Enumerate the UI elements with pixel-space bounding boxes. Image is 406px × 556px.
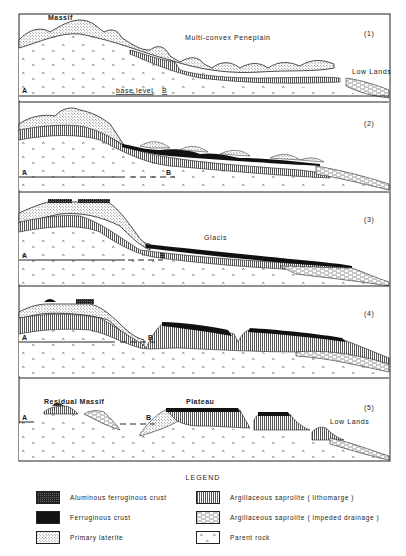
label-low-lands: Low Lands bbox=[330, 418, 369, 425]
label-a: A bbox=[22, 169, 28, 176]
lithomarge-small bbox=[44, 406, 78, 414]
legend-title: LEGEND bbox=[0, 474, 406, 481]
label-massif: Massif bbox=[48, 14, 73, 21]
panel-2: A B (2) bbox=[19, 108, 389, 192]
aluminous-crust-swatch-icon bbox=[36, 491, 60, 504]
label-residual-massif: Residual Massif bbox=[44, 398, 105, 405]
svg-text:^: ^ bbox=[206, 539, 209, 544]
legend-item-ferruginous-crust: Ferruginous crust bbox=[36, 510, 131, 524]
cross-section-diagram: ^ ^ Massif Multi-convex Peneplain (1) Lo… bbox=[0, 0, 406, 470]
label-glacis: Glacis bbox=[204, 234, 227, 241]
label-a: A bbox=[22, 87, 28, 94]
panel-number: (1) bbox=[364, 30, 374, 38]
lithomarge-swatch-icon bbox=[196, 491, 220, 504]
ferruginous-crust-swatch-icon bbox=[36, 511, 60, 524]
legend-label: Ferruginous crust bbox=[70, 514, 131, 521]
panel-1: Massif Multi-convex Peneplain (1) Low La… bbox=[19, 14, 391, 102]
label-b: B bbox=[160, 252, 166, 259]
plateau-crust bbox=[166, 408, 240, 412]
aluminous-crust-layer bbox=[48, 199, 110, 203]
legend-label: Aluminous ferruginous crust bbox=[70, 494, 167, 501]
label-b: B bbox=[166, 169, 172, 176]
parent-rock-swatch-icon: ^ ^ ^ bbox=[196, 531, 220, 544]
low-lithomarge bbox=[312, 427, 344, 440]
legend-item-parent-rock: ^ ^ ^ Parent rock bbox=[196, 530, 270, 544]
legend-item-lithomarge: Argillaceous saprolite ( lithomarge ) bbox=[196, 490, 354, 504]
label-b: B bbox=[148, 334, 154, 341]
label-a: A bbox=[22, 334, 28, 341]
mid-crust bbox=[258, 412, 290, 416]
legend-label: Argillaceous saprolite ( lithomarge ) bbox=[230, 494, 354, 501]
label-plateau: Plateau bbox=[186, 398, 214, 405]
panel-3: A B Glacis (3) bbox=[19, 199, 389, 286]
label-b: B bbox=[146, 414, 152, 421]
impeded-drainage-swatch-icon bbox=[196, 511, 220, 524]
svg-text:^: ^ bbox=[213, 533, 216, 539]
svg-text:^: ^ bbox=[200, 533, 203, 539]
panel-number: (5) bbox=[364, 404, 374, 412]
label-a: A bbox=[22, 414, 28, 421]
panel-number: (3) bbox=[364, 216, 374, 224]
label-multi-convex-peneplain: Multi-convex Peneplain bbox=[185, 34, 271, 42]
primary-laterite-swatch-icon bbox=[36, 531, 60, 544]
label-b: B bbox=[162, 87, 167, 94]
legend: Aluminous ferruginous crust Ferruginous … bbox=[36, 490, 396, 550]
legend-label: Parent rock bbox=[230, 534, 270, 541]
legend-item-primary-laterite: Primary laterite bbox=[36, 530, 123, 544]
panel-number: (2) bbox=[364, 120, 374, 128]
legend-item-impeded-drainage: Argillaceous saprolite ( impeded drainag… bbox=[196, 510, 379, 524]
label-low-lands: Low Lands bbox=[352, 68, 391, 75]
panel-5: A B Residual Massif Plateau Low Lands (5… bbox=[19, 398, 389, 460]
aluminous-crust-cap bbox=[76, 299, 94, 304]
panel-number: (4) bbox=[364, 310, 374, 318]
mid-lithomarge bbox=[254, 414, 310, 430]
legend-item-aluminous-ferruginous-crust: Aluminous ferruginous crust bbox=[36, 490, 167, 504]
legend-label: Argillaceous saprolite ( impeded drainag… bbox=[230, 514, 379, 521]
panel-4: A B (4) bbox=[19, 299, 389, 378]
label-base-level: base level bbox=[116, 87, 154, 94]
ferruginous-crust-cap bbox=[44, 299, 56, 302]
label-a: A bbox=[22, 252, 28, 259]
legend-label: Primary laterite bbox=[70, 534, 123, 541]
